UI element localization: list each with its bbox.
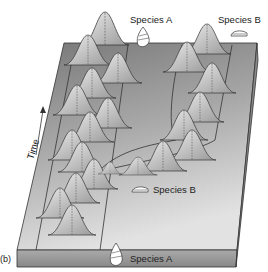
label-species-a-bottom: Species A xyxy=(130,253,173,264)
slab-front xyxy=(17,250,237,267)
shell-icon-species-b-top xyxy=(231,31,247,36)
shell-icon-species-a-top xyxy=(137,27,149,47)
label-species-a-top: Species A xyxy=(130,14,173,25)
label-species-b-mid: Species B xyxy=(153,184,196,195)
panel-label: (b) xyxy=(0,254,11,264)
speciation-diagram: Time Species A Species B Species B Speci… xyxy=(0,0,268,272)
label-species-b-top: Species B xyxy=(218,14,261,25)
